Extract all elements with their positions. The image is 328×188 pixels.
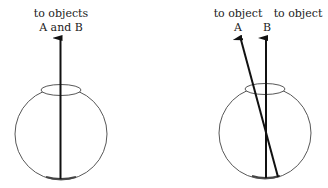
right-label-b-line2: B (263, 21, 271, 34)
eye-diagram: to objects A and B to object A to object… (0, 0, 328, 188)
right-label-a-line1: to object (214, 7, 263, 20)
left-label-line2: A and B (38, 21, 83, 34)
left-eye (15, 38, 107, 180)
right-arrow-a (241, 38, 279, 177)
left-label-line1: to objects (34, 7, 89, 20)
right-eye (219, 38, 311, 179)
right-label-a-line2: A (233, 21, 243, 34)
right-label-b-line1: to object (274, 7, 323, 20)
